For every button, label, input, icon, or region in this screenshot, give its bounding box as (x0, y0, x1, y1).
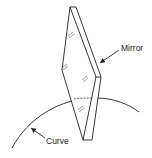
curve-leader-arrow (31, 128, 45, 138)
curve-label: Curve (46, 136, 69, 146)
mirror-plate (62, 7, 101, 140)
mirror-label: Mirror (121, 43, 143, 53)
mirror-leader-arrow (100, 50, 119, 63)
mirror-curve-diagram: Mirror Curve (0, 0, 152, 158)
